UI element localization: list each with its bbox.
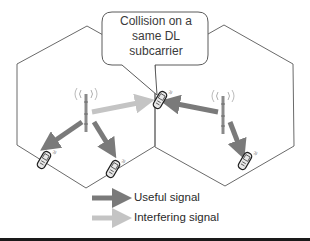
user-phone-icon [36, 145, 58, 172]
legend-interfering-label: Interfering signal [134, 211, 219, 223]
interfering-signal-arrow [92, 102, 143, 112]
useful-signal-arrow [50, 122, 82, 144]
useful-signal-arrow [230, 122, 240, 148]
legend-useful-label: Useful signal [134, 191, 200, 203]
callout-text: Collision on a same DL subcarrier [104, 14, 208, 59]
user-phone-icon [105, 154, 127, 181]
callout-line-3: subcarrier [104, 44, 208, 59]
callout-line-1: Collision on a [104, 14, 208, 29]
useful-signal-arrow [172, 103, 218, 112]
callout-line-2: same DL [104, 29, 208, 44]
useful-signal-arrow [94, 122, 110, 148]
